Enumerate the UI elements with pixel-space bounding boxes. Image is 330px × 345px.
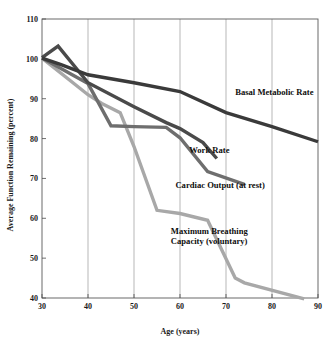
x-tick-label-90: 90 bbox=[314, 302, 322, 311]
series-label-basal-metabolic-rate: Basal Metabolic Rate bbox=[235, 87, 313, 97]
series-label-maximum-breathing-capacity-voluntary-line2: Capacity (voluntary) bbox=[171, 236, 248, 246]
y-tick-label-70: 70 bbox=[30, 174, 38, 183]
x-tick-label-80: 80 bbox=[268, 302, 276, 311]
series-label-maximum-breathing-capacity-voluntary-line1: Maximum Breathing bbox=[171, 226, 249, 236]
y-tick-label-80: 80 bbox=[30, 135, 38, 144]
y-axis-title: Average Function Remaining (percent) bbox=[6, 98, 15, 231]
series-label-work-rate: Work Rate bbox=[189, 145, 230, 155]
x-tick-label-70: 70 bbox=[222, 302, 230, 311]
x-tick-label-50: 50 bbox=[130, 302, 138, 311]
y-tick-label-50: 50 bbox=[30, 254, 38, 263]
x-tick-label-30: 30 bbox=[38, 302, 46, 311]
x-tick-label-40: 40 bbox=[84, 302, 92, 311]
series-label-cardiac-output-at-rest: Cardiac Output (at rest) bbox=[175, 180, 264, 190]
chart-container: 30405060708090 405060708090100110 Basal … bbox=[0, 0, 330, 345]
x-axis-title: Age (years) bbox=[161, 327, 200, 336]
x-tick-label-60: 60 bbox=[176, 302, 184, 311]
y-tick-label-100: 100 bbox=[26, 55, 38, 64]
y-tick-label-90: 90 bbox=[30, 95, 38, 104]
line-chart: 30405060708090 405060708090100110 Basal … bbox=[0, 0, 330, 345]
y-tick-label-110: 110 bbox=[26, 15, 38, 24]
y-tick-label-40: 40 bbox=[30, 294, 38, 303]
y-tick-label-60: 60 bbox=[30, 214, 38, 223]
